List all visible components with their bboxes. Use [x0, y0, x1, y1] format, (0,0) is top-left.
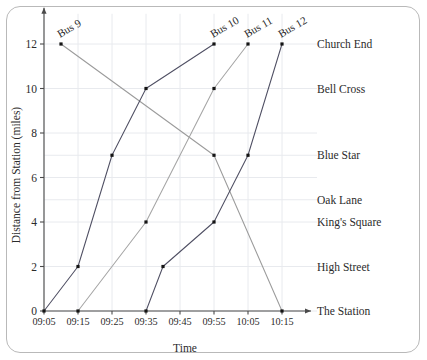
y-axis-title: Distance from Station (miles) [10, 107, 23, 244]
y-tick-label: 0 [31, 305, 37, 317]
series-4-point-5 [280, 42, 283, 45]
stop-label-3: Blue Star [317, 149, 360, 161]
series-3-point-1 [76, 309, 79, 312]
series-4-point-3 [212, 220, 215, 223]
x-axis-tick-labels: 09:0509:1509:2509:3509:4509:5510:0510:15 [32, 316, 293, 327]
series-label-4: Bus 12 [276, 14, 309, 40]
y-tick-label: 12 [26, 38, 38, 50]
series-2-point-5 [212, 42, 215, 45]
x-tick-label: 09:15 [66, 316, 89, 327]
y-axis-arrowhead [41, 8, 46, 14]
series-3-point-4 [246, 42, 249, 45]
x-tick-label: 09:35 [134, 316, 157, 327]
y-axis-tick-labels: 024681012 [26, 38, 38, 317]
series-labels: Bus 9Bus 10Bus 11Bus 12 [55, 14, 309, 40]
x-tick-label: 10:05 [236, 316, 259, 327]
x-tick-label: 10:15 [270, 316, 293, 327]
y-tick-label: 4 [31, 216, 37, 228]
x-tick-label: 09:55 [202, 316, 225, 327]
travel-graph-plot: 09:0509:1509:2509:3509:4509:5510:0510:15… [0, 0, 427, 360]
series-2-point-3 [110, 154, 113, 157]
x-tick-label: 09:05 [32, 316, 55, 327]
stop-label-6: High Street [317, 261, 371, 274]
stop-labels: Church EndBell CrossBlue StarOak LaneKin… [317, 38, 381, 317]
series-1-point-1 [59, 42, 62, 45]
series-2-point-2 [76, 265, 79, 268]
y-axis-ticks [40, 44, 44, 311]
stop-label-4: Oak Lane [317, 194, 362, 206]
series-2-point-4 [144, 87, 147, 90]
series-label-2: Bus 10 [208, 14, 241, 40]
series-3-point-3 [212, 87, 215, 90]
series-2-point-1 [42, 309, 45, 312]
series-1-point-3 [280, 309, 283, 312]
y-tick-label: 8 [31, 127, 37, 139]
series-3-point-2 [144, 220, 147, 223]
x-tick-label: 09:25 [100, 316, 123, 327]
series-4-point-2 [161, 265, 164, 268]
x-axis-title: Time [173, 342, 197, 354]
x-tick-label: 09:45 [168, 316, 191, 327]
chart-figure: 09:0509:1509:2509:3509:4509:5510:0510:15… [0, 0, 427, 360]
stop-label-2: Bell Cross [317, 83, 366, 95]
series-label-1: Bus 9 [55, 16, 83, 39]
stop-label-1: Church End [317, 38, 373, 50]
y-tick-label: 2 [31, 261, 37, 273]
series-4-point-4 [246, 154, 249, 157]
y-tick-label: 6 [31, 172, 37, 184]
series-1-point-2 [212, 154, 215, 157]
y-tick-label: 10 [26, 83, 38, 95]
series-label-3: Bus 11 [242, 14, 274, 40]
axes [41, 8, 311, 314]
x-axis-arrowhead [305, 308, 311, 313]
stop-label-7: The Station [317, 305, 371, 317]
stop-label-5: King's Square [317, 216, 381, 229]
series-4-point-1 [144, 309, 147, 312]
